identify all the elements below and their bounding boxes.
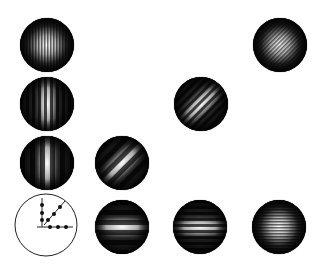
key-circle xyxy=(15,194,77,256)
key-diagram xyxy=(0,0,321,266)
horizontal-dot xyxy=(56,225,60,229)
diagonal-dot xyxy=(52,212,56,216)
diagonal-dot xyxy=(46,218,50,222)
horizontal-dot xyxy=(48,225,52,229)
vertical-dot xyxy=(40,211,44,215)
horizontal-dot xyxy=(64,225,68,229)
diagonal-dot xyxy=(58,205,62,209)
vertical-dot xyxy=(40,203,44,207)
vertical-dot xyxy=(40,218,44,222)
